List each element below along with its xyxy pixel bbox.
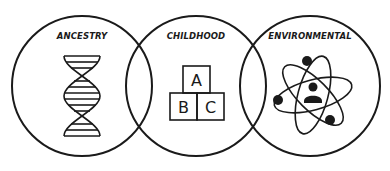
electron-2	[273, 95, 283, 105]
ancestry-label: ANCESTRY	[22, 31, 142, 41]
block-b: B	[178, 98, 189, 117]
venn-diagram: A B C	[0, 0, 390, 171]
electron-1	[302, 56, 312, 66]
atom-person-icon	[270, 52, 355, 137]
childhood-label: CHILDHOOD	[136, 31, 256, 41]
person-icon	[304, 83, 322, 104]
environmental-label: ENVIRONMENTAL	[250, 31, 370, 41]
abc-blocks-icon: A B C	[170, 66, 224, 120]
block-c: C	[205, 98, 216, 117]
electron-3	[325, 115, 335, 125]
block-a: A	[191, 71, 202, 90]
dna-icon	[64, 56, 100, 136]
